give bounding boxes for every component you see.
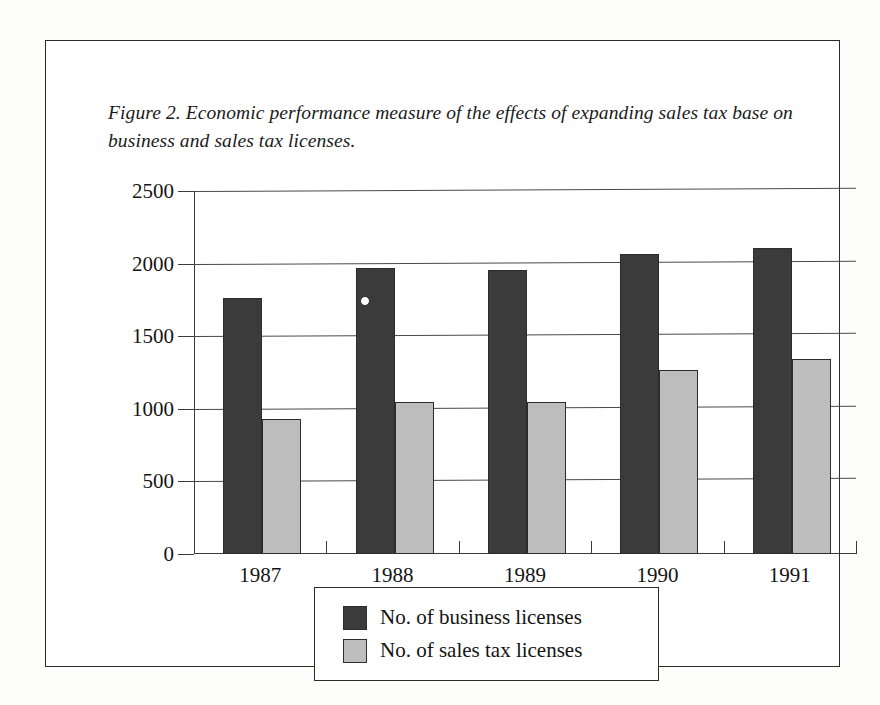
bar-1989-series0: [488, 270, 527, 554]
bar-1990-series1: [659, 370, 698, 554]
x-axis-tick: [459, 541, 460, 554]
x-axis-label-1991: 1991: [769, 563, 811, 588]
x-axis-tick: [591, 541, 592, 554]
figure-caption: Figure 2. Economic performance measure o…: [108, 99, 808, 155]
x-axis-end-tick: [856, 541, 857, 554]
bar-1988-series1: [395, 402, 434, 554]
x-axis-label-1989: 1989: [504, 563, 546, 588]
bar-1991-series1: [792, 359, 831, 554]
x-axis-end-tick: [194, 541, 195, 554]
x-axis-tick: [724, 541, 725, 554]
plot-area: 05001000150020002500 1987198819891990199…: [194, 191, 856, 554]
y-axis: [194, 191, 195, 554]
legend-swatch-sales-tax-licenses: [343, 639, 367, 663]
y-axis-tick: [178, 191, 194, 192]
chart-legend: No. of business licenses No. of sales ta…: [314, 587, 659, 681]
gridline: [194, 188, 856, 192]
y-axis-label: 500: [143, 469, 175, 494]
y-axis-tick: [178, 336, 194, 337]
y-axis-tick: [178, 481, 194, 482]
bar-1987-series1: [262, 419, 301, 554]
bar-1990-series0: [620, 254, 659, 554]
y-axis-label: 1000: [132, 396, 174, 421]
bar-1991-series0: [753, 248, 792, 554]
legend-entry-0: No. of business licenses: [343, 601, 658, 634]
y-axis-tick: [178, 409, 194, 410]
legend-swatch-business-licenses: [343, 606, 367, 630]
bar-chart: 05001000150020002500 1987198819891990199…: [106, 181, 876, 581]
y-axis-label: 1500: [132, 324, 174, 349]
legend-entry-1: No. of sales tax licenses: [343, 634, 658, 667]
x-axis-label-1990: 1990: [636, 563, 678, 588]
bar-1987-series0: [223, 298, 262, 554]
bar-1988-series0: [356, 268, 395, 554]
scan-speck-artifact: [360, 296, 370, 306]
y-axis-label: 2000: [132, 251, 174, 276]
legend-label-business-licenses: No. of business licenses: [380, 605, 582, 630]
x-axis-tick: [326, 541, 327, 554]
x-axis-label-1988: 1988: [372, 563, 414, 588]
y-axis-tick: [178, 554, 194, 555]
y-axis-label: 2500: [132, 179, 174, 204]
y-axis-tick: [178, 264, 194, 265]
x-axis-label-1987: 1987: [239, 563, 281, 588]
legend-label-sales-tax-licenses: No. of sales tax licenses: [380, 638, 582, 663]
bar-1989-series1: [527, 402, 566, 554]
figure-frame: Figure 2. Economic performance measure o…: [45, 40, 840, 667]
y-axis-label: 0: [164, 542, 175, 567]
